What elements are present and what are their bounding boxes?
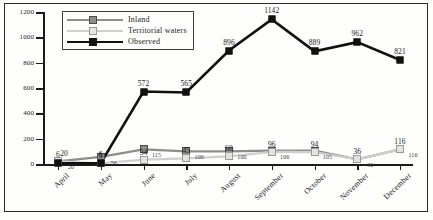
data-label-observed: 572 — [138, 78, 150, 87]
data-point-territorial-waters — [225, 152, 233, 160]
data-point-territorial-waters — [396, 145, 404, 153]
data-point-territorial-waters — [268, 148, 276, 156]
data-label-observed: 962 — [351, 29, 363, 38]
y-tick-label: 0 — [30, 160, 34, 168]
y-tick-label: 800 — [23, 59, 34, 67]
y-tick-label: 1200 — [20, 8, 34, 16]
data-point-observed — [397, 57, 404, 64]
data-label-territorial-waters: 6 — [99, 151, 103, 160]
data-point-observed — [226, 47, 233, 54]
y-tick-label: 400 — [23, 109, 34, 117]
data-label-territorial-waters: 20 — [60, 149, 68, 158]
data-label-territorial-waters: 34 — [140, 147, 148, 156]
y-tick — [36, 12, 45, 14]
data-label-territorial-waters: 60 — [225, 144, 233, 153]
data-label-inland: 100 — [195, 154, 204, 160]
data-point-territorial-waters — [311, 148, 319, 156]
legend-swatch-observed — [67, 36, 123, 47]
data-label-observed: 565 — [180, 79, 192, 88]
legend-item-observed: Observed — [67, 36, 189, 47]
x-tick — [315, 165, 316, 170]
legend-item-inland: Inland — [67, 14, 189, 25]
data-label-territorial-waters: 45 — [182, 146, 190, 155]
y-tick-label: 600 — [23, 84, 34, 92]
legend-label-observed: Observed — [128, 37, 160, 46]
legend-item-territorial-waters: Territorial waters — [67, 25, 189, 36]
data-label-inland: 100 — [237, 154, 246, 160]
data-label-inland: 116 — [408, 152, 417, 158]
data-label-observed: 896 — [223, 37, 235, 46]
y-tick — [36, 63, 45, 65]
data-point-observed — [268, 16, 275, 23]
y-tick-label: 1000 — [20, 33, 34, 41]
data-point-observed — [183, 89, 190, 96]
y-tick-label: 200 — [23, 135, 34, 143]
chart-legend: Inland Territorial waters Observed — [62, 11, 194, 50]
legend-swatch-territorial-waters — [67, 25, 123, 36]
data-point-observed — [55, 160, 62, 167]
x-tick — [144, 165, 145, 170]
data-label-observed: 1142 — [264, 6, 279, 15]
data-point-territorial-waters — [182, 154, 190, 162]
legend-label-inland: Inland — [128, 15, 150, 24]
data-point-observed — [354, 39, 361, 46]
data-point-observed — [97, 160, 104, 167]
data-label-territorial-waters: 36 — [353, 147, 361, 156]
data-label-inland: 20 — [68, 164, 74, 170]
legend-swatch-inland — [67, 14, 123, 25]
x-tick — [272, 165, 273, 170]
data-point-observed — [311, 48, 318, 55]
x-tick — [186, 165, 187, 170]
data-point-territorial-waters — [353, 155, 361, 163]
data-point-territorial-waters — [140, 156, 148, 164]
y-tick — [36, 113, 45, 115]
data-label-territorial-waters: 116 — [394, 137, 405, 146]
chart-figure: 020040060080010001200 AprilMayJuneJulyAu… — [0, 0, 433, 220]
y-tick — [36, 37, 45, 39]
data-label-observed: 821 — [394, 47, 406, 56]
y-tick — [36, 139, 45, 141]
data-label-inland: 115 — [152, 152, 161, 158]
data-label-territorial-waters: 96 — [268, 139, 276, 148]
x-tick — [229, 165, 230, 170]
x-tick — [400, 165, 401, 170]
data-label-inland: 56 — [111, 160, 117, 166]
x-tick — [357, 165, 358, 170]
data-point-observed — [140, 88, 147, 95]
data-label-inland: 36 — [367, 162, 373, 168]
data-label-territorial-waters: 94 — [311, 140, 319, 149]
data-label-observed: 889 — [309, 38, 321, 47]
data-label-inland: 106 — [280, 154, 289, 160]
data-label-inland: 105 — [323, 154, 332, 160]
legend-label-territorial-waters: Territorial waters — [128, 26, 187, 35]
y-tick — [36, 88, 45, 90]
